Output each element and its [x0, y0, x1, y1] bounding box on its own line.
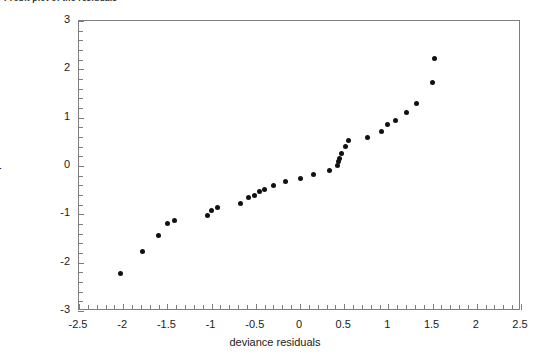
data-point [404, 110, 409, 115]
x-tick-label: 2 [456, 318, 496, 330]
x-axis-minor-tick [185, 305, 186, 310]
x-tick-label: -2 [102, 318, 142, 330]
x-axis-minor-tick [397, 305, 398, 310]
data-point [311, 172, 316, 177]
y-axis-minor-tick [78, 205, 83, 206]
x-axis-major-tick [300, 304, 301, 310]
x-axis-minor-tick [238, 305, 239, 310]
data-point [430, 80, 435, 85]
x-axis-major-tick [212, 304, 213, 310]
x-axis-minor-tick [159, 305, 160, 310]
x-axis-minor-tick [203, 305, 204, 310]
y-axis-major-tick [78, 263, 84, 264]
x-axis-minor-tick [424, 305, 425, 310]
y-tick-label: 3 [46, 13, 70, 25]
data-point [432, 56, 437, 61]
x-axis-minor-tick [353, 305, 354, 310]
x-axis-title: deviance residuals [0, 336, 550, 348]
y-axis-minor-tick [78, 31, 83, 32]
x-tick-label: 2.5 [500, 318, 540, 330]
x-axis-minor-tick [468, 305, 469, 310]
x-axis-minor-tick [486, 305, 487, 310]
y-axis-minor-tick [78, 40, 83, 41]
data-point [262, 187, 267, 192]
y-axis-minor-tick [78, 224, 83, 225]
x-axis-minor-tick [220, 305, 221, 310]
data-point [327, 168, 332, 173]
x-axis-minor-tick [247, 305, 248, 310]
x-axis-minor-tick [327, 305, 328, 310]
x-axis-minor-tick [150, 305, 151, 310]
y-axis-minor-tick [78, 282, 83, 283]
x-axis-minor-tick [450, 305, 451, 310]
y-axis-minor-tick [78, 176, 83, 177]
x-axis-minor-tick [88, 305, 89, 310]
y-axis-minor-tick [78, 253, 83, 254]
x-axis-minor-tick [309, 305, 310, 310]
data-point [257, 189, 262, 194]
x-tick-label: -0.5 [235, 318, 275, 330]
data-point [379, 129, 384, 134]
x-tick-label: -2.5 [58, 318, 98, 330]
y-axis-minor-tick [78, 79, 83, 80]
data-point [156, 233, 161, 238]
x-axis-minor-tick [406, 305, 407, 310]
chart-title: Probit plot of the residuals [4, 0, 117, 3]
x-axis-minor-tick [273, 305, 274, 310]
x-axis-minor-tick [265, 305, 266, 310]
x-tick-label: 0 [279, 318, 319, 330]
y-axis-minor-tick [78, 60, 83, 61]
x-tick-label: -1.5 [146, 318, 186, 330]
y-axis-title: p fractile [0, 128, 1, 170]
x-axis-minor-tick [106, 305, 107, 310]
x-axis-major-tick [477, 304, 478, 310]
x-axis-major-tick [433, 304, 434, 310]
x-axis-minor-tick [512, 305, 513, 310]
x-axis-minor-tick [494, 305, 495, 310]
x-axis-minor-tick [114, 305, 115, 310]
data-point [393, 118, 398, 123]
x-axis-major-tick [256, 304, 257, 310]
data-point [209, 208, 214, 213]
data-point [118, 271, 123, 276]
x-axis-minor-tick [318, 305, 319, 310]
y-axis-major-tick [78, 311, 84, 312]
x-axis-minor-tick [415, 305, 416, 310]
data-point [271, 183, 276, 188]
data-point [385, 122, 390, 127]
y-axis-minor-tick [78, 147, 83, 148]
data-point [346, 138, 351, 143]
x-axis-minor-tick [503, 305, 504, 310]
y-axis-minor-tick [78, 89, 83, 90]
y-axis-major-tick [78, 21, 84, 22]
y-axis-major-tick [78, 69, 84, 70]
data-point [414, 101, 419, 106]
data-point [339, 151, 344, 156]
data-point [246, 195, 251, 200]
y-tick-label: -3 [46, 303, 70, 315]
y-axis-major-tick [78, 118, 84, 119]
data-point [252, 193, 257, 198]
x-axis-minor-tick [371, 305, 372, 310]
x-axis-major-tick [79, 304, 80, 310]
y-axis-minor-tick [78, 272, 83, 273]
y-axis-minor-tick [78, 185, 83, 186]
x-axis-minor-tick [335, 305, 336, 310]
data-point [283, 179, 288, 184]
y-axis-minor-tick [78, 137, 83, 138]
y-axis-minor-tick [78, 50, 83, 51]
data-point [343, 144, 348, 149]
y-axis-minor-tick [78, 301, 83, 302]
x-axis-major-tick [344, 304, 345, 310]
y-axis-minor-tick [78, 243, 83, 244]
y-tick-label: -1 [46, 206, 70, 218]
x-axis-minor-tick [459, 305, 460, 310]
x-tick-label: 1 [367, 318, 407, 330]
y-tick-label: 2 [46, 61, 70, 73]
data-point [140, 249, 145, 254]
x-axis-major-tick [388, 304, 389, 310]
y-axis-minor-tick [78, 156, 83, 157]
x-axis-minor-tick [97, 305, 98, 310]
x-axis-major-tick [123, 304, 124, 310]
x-tick-label: 1.5 [412, 318, 452, 330]
